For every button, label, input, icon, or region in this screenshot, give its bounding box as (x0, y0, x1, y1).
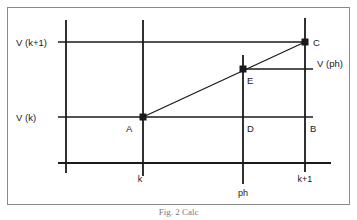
label-point-c: C (313, 37, 320, 48)
interpolation-diagram: V (k+1) V (k) V (ph) C E A D B k k+1 ph (0, 0, 357, 220)
tick-label-ph: ph (238, 188, 248, 198)
figure-root: V (k+1) V (k) V (ph) C E A D B k k+1 ph … (0, 0, 357, 220)
point-marker-c (302, 39, 309, 46)
figure-caption: Fig. 2 Calc (0, 207, 357, 220)
label-v-k: V (k) (16, 112, 36, 123)
interpolation-line-ac (143, 42, 305, 117)
label-v-ph: V (ph) (317, 58, 343, 69)
label-point-d: D (247, 123, 254, 134)
label-point-a: A (126, 123, 133, 134)
label-point-e: E (247, 75, 253, 86)
tick-label-k-plus-1: k+1 (298, 174, 313, 184)
point-marker-e (240, 66, 247, 73)
point-marker-a (140, 114, 147, 121)
label-v-k-plus-1: V (k+1) (16, 37, 47, 48)
label-point-b: B (310, 123, 316, 134)
tick-label-k: k (138, 174, 143, 184)
